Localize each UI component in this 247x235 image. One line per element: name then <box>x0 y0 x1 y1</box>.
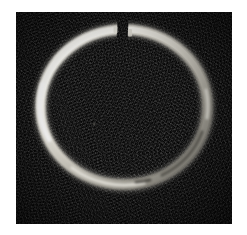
ring-gap-terminus-right <box>128 29 132 37</box>
interior-speck <box>93 123 95 125</box>
metal-ring-graphic <box>16 12 232 224</box>
ring-gap-terminus-left <box>114 27 118 34</box>
photograph-plate <box>16 12 232 224</box>
figure-root: Grayscale close-up photograph of a brigh… <box>0 0 247 235</box>
